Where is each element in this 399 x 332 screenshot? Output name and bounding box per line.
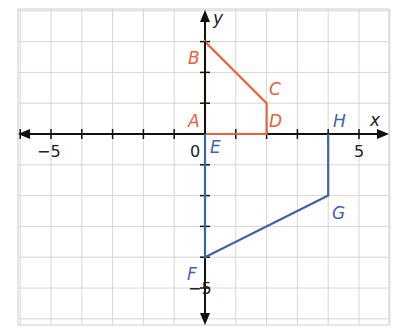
x-axis-label: x	[369, 110, 381, 130]
vertex-label-a: A	[187, 111, 200, 131]
origin-label: 0	[190, 142, 200, 161]
vertex-label-d: D	[269, 111, 282, 131]
x-axis-right-arrow-icon	[377, 129, 389, 139]
x-tick-label-5: 5	[354, 142, 364, 161]
coordinate-plane: −55−50xy BCADEHGF	[0, 0, 399, 332]
vertex-label-f: F	[187, 264, 197, 284]
x-tick-label-neg5: −5	[37, 142, 61, 161]
vertex-label-b: B	[188, 48, 200, 68]
grid-border	[18, 9, 389, 325]
axes: −55−50xy	[18, 8, 389, 325]
y-axis-label: y	[212, 8, 224, 28]
y-axis-up-arrow-icon	[200, 10, 210, 22]
vertex-label-h: H	[333, 111, 346, 131]
vertex-label-c: C	[269, 79, 281, 99]
vertex-label-g: G	[332, 203, 345, 223]
vertex-label-e: E	[210, 137, 221, 157]
